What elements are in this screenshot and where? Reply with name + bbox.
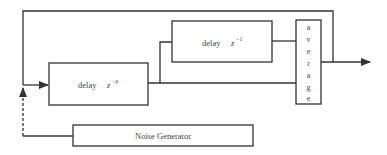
delay-p-exponent: −p <box>112 78 118 84</box>
average-block: a v e r a g e <box>296 20 321 104</box>
delay-1-var: z <box>230 38 235 48</box>
noise-generator-block: Noise Generator <box>73 125 253 146</box>
delay-p-label: delay <box>78 80 97 90</box>
delay-1-block: delay z −1 <box>172 21 272 62</box>
signal-flow-diagram: delay z −p delay z −1 a v e r a g e Nois… <box>0 0 387 155</box>
average-letter: r <box>307 59 310 68</box>
average-letter: e <box>307 47 311 56</box>
average-letter: a <box>307 23 311 32</box>
noise-generator-label: Noise Generator <box>135 131 191 141</box>
delay-1-exponent: −1 <box>236 36 242 42</box>
branch-to-delay-1-wire <box>160 42 172 83</box>
average-letter: a <box>307 71 311 80</box>
delay-1-label: delay <box>202 38 221 48</box>
average-letter: g <box>307 83 311 92</box>
delay-p-var: z <box>106 80 111 90</box>
delay-p-block: delay z −p <box>49 63 148 105</box>
average-letter: v <box>307 35 311 44</box>
average-letter: e <box>307 94 311 103</box>
